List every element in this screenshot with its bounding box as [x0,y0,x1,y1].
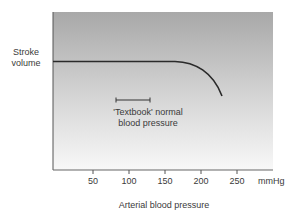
x-ticks [93,170,237,174]
annotation-line1: 'Textbook' normal [100,107,196,118]
x-tick-label-200: 200 [193,176,208,186]
y-axis-label-line1: Stroke [6,47,46,58]
x-axis-label: Arterial blood pressure [0,200,298,211]
x-tick-label-100: 100 [121,176,136,186]
y-axis-label: Stroke volume [6,47,46,69]
x-axis-unit: mmHg [258,176,285,186]
normal-bp-annotation: 'Textbook' normal blood pressure [100,107,196,129]
annotation-line2: blood pressure [100,118,196,129]
x-tick-label-250: 250 [229,176,244,186]
x-tick-label-50: 50 [88,176,98,186]
x-tick-label-150: 150 [157,176,172,186]
y-axis-label-line2: volume [6,58,46,69]
plot-area [53,12,273,170]
